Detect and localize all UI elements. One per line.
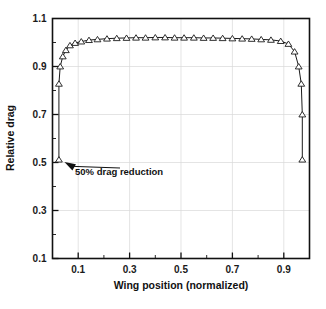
y-axis-title: Relative drag <box>4 105 16 171</box>
x-tick-label: 0.7 <box>225 264 239 275</box>
x-tick-label: 0.1 <box>71 264 85 275</box>
x-axis-title: Wing position (normalized) <box>114 279 249 291</box>
y-tick-label: 0.1 <box>33 253 47 264</box>
y-tick-label: 0.7 <box>33 109 47 120</box>
y-tick-label: 0.9 <box>33 61 47 72</box>
annotation-text: 50% drag reduction <box>75 166 163 177</box>
x-tick-label: 0.5 <box>174 264 188 275</box>
drag-reduction-chart: 0.10.30.50.70.9 0.10.30.50.70.91.1 50% d… <box>0 0 326 309</box>
y-tick-label: 0.3 <box>33 205 47 216</box>
y-tick-label: 0.5 <box>33 157 47 168</box>
chart-svg: 0.10.30.50.70.9 0.10.30.50.70.91.1 50% d… <box>0 0 326 309</box>
x-tick-label: 0.3 <box>123 264 137 275</box>
x-tick-label: 0.9 <box>277 264 291 275</box>
y-tick-label: 1.1 <box>33 13 47 24</box>
